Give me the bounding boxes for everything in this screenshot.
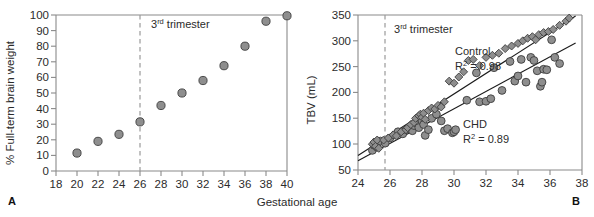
data-point <box>437 117 445 125</box>
y-tick-label: 50 <box>338 164 351 176</box>
data-point <box>556 60 564 68</box>
panel-a-y-ticks <box>51 15 56 171</box>
panel-a-trimester-annotation: 3rd trimester <box>151 17 210 30</box>
panel-b-trimester-annotation: 3rd trimester <box>394 22 453 35</box>
y-tick-label: 250 <box>332 61 351 73</box>
y-tick-label: 30 <box>36 118 49 130</box>
y-tick-label: 20 <box>36 134 49 146</box>
x-tick-label: 36 <box>239 178 252 190</box>
data-point <box>487 95 495 103</box>
y-tick-label: 150 <box>332 112 351 124</box>
panel-a: % Full-term brain weight 100 90 80 70 60… <box>0 0 297 217</box>
y-tick-label: 100 <box>332 138 351 150</box>
x-tick-label: 32 <box>480 177 493 189</box>
panel-b-x-ticks <box>358 170 582 175</box>
y-tick-label: 350 <box>332 9 351 21</box>
data-point <box>425 126 433 134</box>
panel-b-control-r2: R2 = 0.98 <box>455 59 501 72</box>
x-tick-label: 40 <box>281 178 294 190</box>
figure-container: % Full-term brain weight 100 90 80 70 60… <box>0 0 594 217</box>
data-point <box>73 149 81 157</box>
y-tick-label: 10 <box>36 149 49 161</box>
panel-b-y-ticks <box>353 15 358 170</box>
shared-x-axis-label: Gestational age <box>0 196 594 208</box>
data-point <box>199 76 207 84</box>
panel-b-control-label: Control <box>455 45 490 57</box>
data-point <box>262 17 270 25</box>
panel-b-chd-r2: R2 = 0.89 <box>463 132 509 145</box>
data-point <box>452 126 460 134</box>
data-point <box>220 62 228 70</box>
x-tick-label: 38 <box>260 178 273 190</box>
data-point <box>463 96 471 104</box>
data-point <box>543 66 551 74</box>
panel-b-y-tick-labels: 350 300 250 200 150 100 50 <box>332 9 351 176</box>
x-tick-label: 38 <box>576 177 589 189</box>
x-tick-label: 18 <box>50 178 63 190</box>
x-tick-label: 20 <box>71 178 84 190</box>
y-tick-label: 50 <box>36 87 49 99</box>
panel-a-data-points <box>73 12 291 157</box>
data-point <box>517 56 525 64</box>
data-point <box>157 101 165 109</box>
data-point <box>94 137 102 145</box>
y-tick-label: 60 <box>36 71 49 83</box>
y-tick-label: 300 <box>332 35 351 47</box>
data-point <box>522 78 530 86</box>
y-tick-label: 100 <box>30 9 49 21</box>
panel-a-y-axis-title: % Full-term brain weight <box>4 40 16 165</box>
data-point <box>506 58 514 66</box>
data-point <box>530 57 538 65</box>
data-point <box>283 12 291 20</box>
data-point <box>136 118 144 126</box>
panel-b-plot: TBV (mL) 350 300 250 200 150 100 50 <box>297 0 594 217</box>
y-tick-label: 0 <box>43 165 49 177</box>
x-tick-label: 22 <box>92 178 105 190</box>
data-point <box>548 36 556 44</box>
data-point <box>498 87 506 95</box>
panel-a-y-tick-labels: 100 90 80 70 60 50 40 30 20 10 0 <box>30 9 49 177</box>
panel-a-x-tick-labels: 18 20 22 24 26 28 30 32 34 36 38 40 <box>50 178 294 190</box>
x-tick-label: 34 <box>218 178 231 190</box>
panel-a-plot: % Full-term brain weight 100 90 80 70 60… <box>0 0 297 217</box>
data-point <box>115 130 123 138</box>
x-tick-label: 26 <box>384 177 397 189</box>
y-tick-label: 90 <box>36 25 49 37</box>
panel-b-chd-label: CHD <box>463 118 487 130</box>
x-tick-label: 34 <box>512 177 525 189</box>
x-tick-label: 30 <box>176 178 189 190</box>
y-tick-label: 200 <box>332 86 351 98</box>
y-tick-label: 40 <box>36 103 49 115</box>
x-tick-label: 28 <box>155 178 168 190</box>
data-point <box>178 89 186 97</box>
data-point <box>538 78 546 86</box>
x-tick-label: 28 <box>416 177 429 189</box>
x-tick-label: 30 <box>448 177 461 189</box>
panel-a-x-ticks <box>56 171 287 176</box>
panel-b-y-axis-title: TBV (mL) <box>305 75 317 124</box>
x-tick-label: 24 <box>113 178 126 190</box>
y-tick-label: 80 <box>36 40 49 52</box>
x-tick-label: 24 <box>352 177 365 189</box>
x-tick-label: 26 <box>134 178 147 190</box>
panel-b-x-tick-labels: 24 26 28 30 32 34 36 38 <box>352 177 589 189</box>
data-point <box>514 72 522 80</box>
x-tick-label: 32 <box>197 178 210 190</box>
x-tick-label: 36 <box>544 177 557 189</box>
data-point <box>241 42 249 50</box>
panel-b: TBV (mL) 350 300 250 200 150 100 50 <box>297 0 594 217</box>
y-tick-label: 70 <box>36 56 49 68</box>
